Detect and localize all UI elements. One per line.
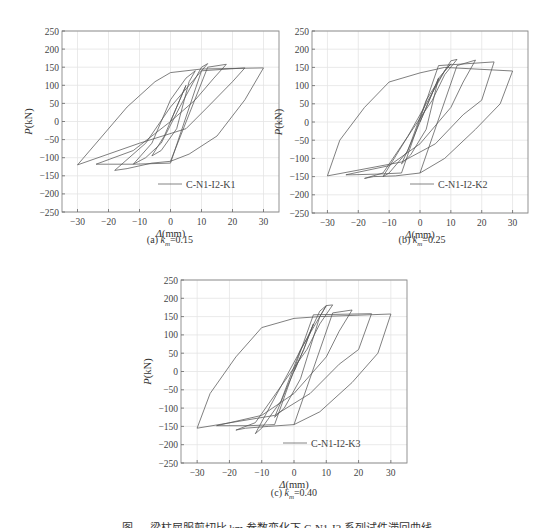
y-tick-label: 50 xyxy=(169,349,179,359)
x-tick-label: −10 xyxy=(254,468,269,478)
y-tick-label: −200 xyxy=(158,440,178,450)
y-tick-label: 150 xyxy=(164,312,179,322)
y-tick-label: −100 xyxy=(158,404,178,414)
legend-label: C-N1-I2-K3 xyxy=(311,438,360,449)
x-tick-label: 0 xyxy=(292,468,297,478)
legend: C-N1-I2-K3 xyxy=(283,438,360,449)
y-tick-label: 200 xyxy=(164,294,179,304)
x-tick-label: 30 xyxy=(386,468,396,478)
caption-value: =0.40 xyxy=(294,487,317,498)
x-tick-label: 20 xyxy=(354,468,364,478)
y-axis-label: P(kN) xyxy=(142,358,154,386)
chart-c-caption: (c) km=0.40 xyxy=(234,487,354,501)
x-tick-label: 10 xyxy=(322,468,332,478)
chart-c: −30−20−100102030250200150100500−50−100−1… xyxy=(0,0,554,528)
x-tick-label: −30 xyxy=(190,468,205,478)
x-tick-label: −20 xyxy=(222,468,237,478)
y-tick-label: 0 xyxy=(173,367,178,377)
y-tick-label: −250 xyxy=(158,459,178,469)
chart-c-plot: −30−20−100102030250200150100500−50−100−1… xyxy=(0,0,554,528)
y-tick-label: −50 xyxy=(163,385,178,395)
caption-prefix: (c) xyxy=(271,487,285,498)
y-tick-label: 250 xyxy=(164,276,179,286)
figure-caption: 图 — 梁柱屈服剪切比 km 参数变化下 C-N1-I2 系列试件滞回曲线 xyxy=(0,519,554,528)
y-tick-label: −150 xyxy=(158,422,178,432)
y-tick-label: 100 xyxy=(164,330,179,340)
